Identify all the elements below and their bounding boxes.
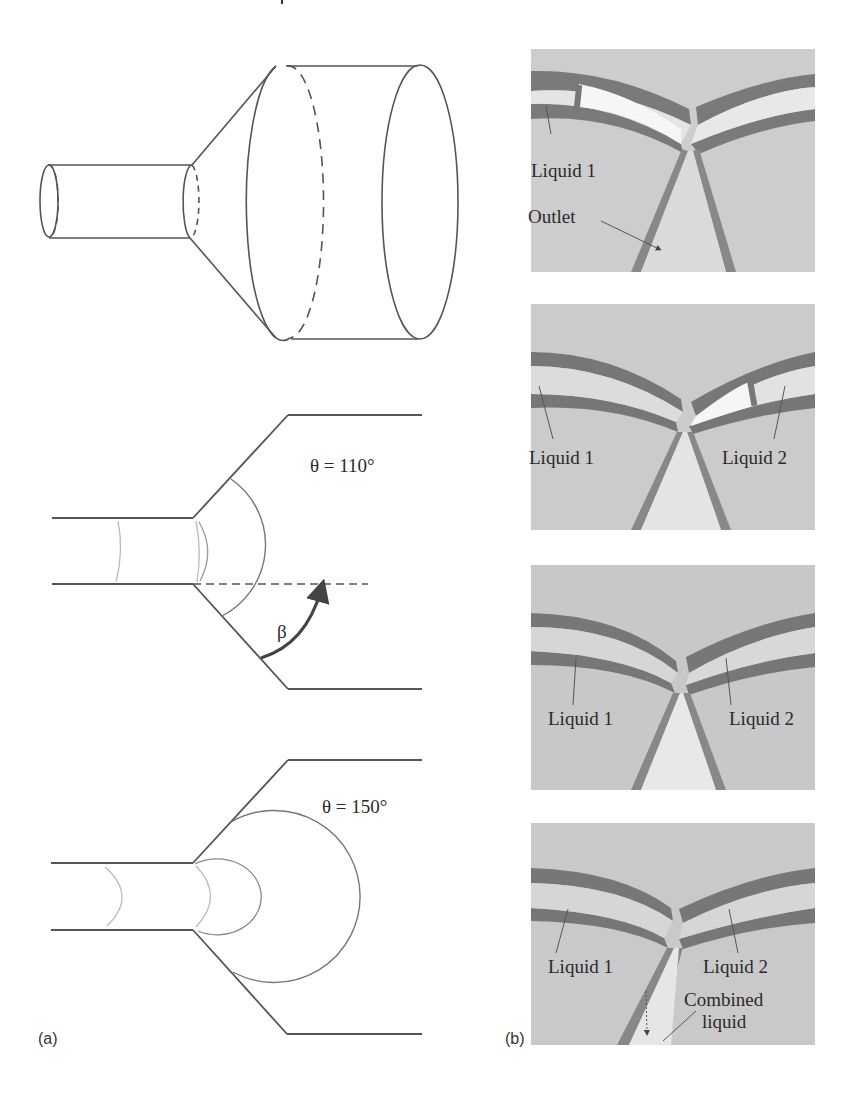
photo-4-combined: Liquid 1 Liquid 2 Combined liquid — [531, 823, 815, 1045]
photo4-liquid1-label: Liquid 1 — [548, 956, 613, 977]
photo1-outlet-label: Outlet — [528, 206, 576, 227]
beta-label: β — [277, 621, 287, 642]
photo-2: Liquid 1 Liquid 2 — [529, 304, 815, 530]
photo4-liquid2-label: Liquid 2 — [703, 956, 768, 977]
meniscus-diagram-110: β θ = 110° — [52, 415, 422, 689]
panel-a-drawings: β θ = 110° θ = 150° (a) — [0, 0, 852, 1096]
photo-3: Liquid 1 Liquid 2 — [531, 565, 815, 790]
panel-a-letter: (a) — [38, 1030, 58, 1047]
panel-b-letter: (b) — [505, 1030, 525, 1047]
meniscus-diagram-150: θ = 150° — [51, 760, 422, 1034]
photo4-combined-label-line2: liquid — [702, 1011, 747, 1032]
3d-channel-diagram — [40, 65, 458, 341]
photo2-liquid1-label: Liquid 1 — [529, 447, 594, 468]
theta-110-label: θ = 110° — [310, 455, 375, 476]
photo3-liquid1-label: Liquid 1 — [548, 708, 613, 729]
photo-1-outlet: Liquid 1 Outlet — [528, 49, 815, 272]
photo2-liquid2-label: Liquid 2 — [722, 447, 787, 468]
photo1-liquid1-label: Liquid 1 — [531, 160, 596, 181]
photo4-combined-label-line1: Combined — [684, 989, 764, 1010]
theta-150-label: θ = 150° — [322, 796, 387, 817]
photo3-liquid2-label: Liquid 2 — [729, 708, 794, 729]
